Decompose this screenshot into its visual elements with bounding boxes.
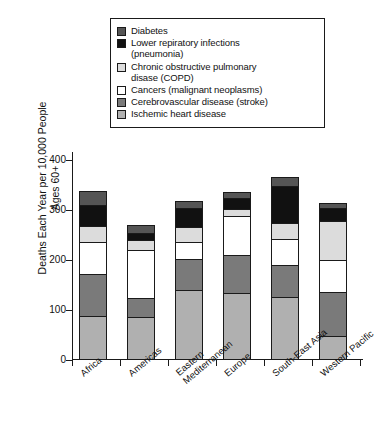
bar-segment [176, 228, 202, 244]
x-tick-mark [120, 360, 121, 366]
y-tick-label: 400 [36, 154, 66, 165]
bar-segment [128, 226, 154, 235]
legend-item-label: Lower repiratory infections (pneumonia) [131, 37, 240, 59]
bar-africa [79, 191, 107, 361]
legend-item: Ischemic heart disease [117, 108, 317, 119]
x-tick-mark [312, 360, 313, 366]
x-tick-mark [264, 360, 265, 366]
bar-segment [224, 199, 250, 210]
y-tick-label: 100 [36, 304, 66, 315]
bar-segment [176, 209, 202, 228]
bar-segment [176, 243, 202, 260]
bar-segment [272, 187, 298, 225]
legend-swatch-icon [117, 98, 126, 107]
x-tick-mark [360, 360, 361, 366]
bar-segment [80, 317, 106, 360]
legend-item-label: Chronic obstructive pulmonary disase (CO… [131, 61, 256, 83]
legend-item: Chronic obstructive pulmonary disase (CO… [117, 61, 317, 83]
bar-eastern-mediterranean [175, 201, 203, 361]
bar-americas [127, 225, 155, 361]
bar-segment [80, 227, 106, 244]
bar-segment [128, 251, 154, 299]
bar-segment [128, 241, 154, 252]
bar-segment [80, 275, 106, 317]
legend-item-label: Ischemic heart disease [131, 108, 226, 119]
bar-segment [80, 192, 106, 206]
bar-segment [80, 206, 106, 227]
legend-swatch-icon [117, 110, 126, 119]
bar-europe [223, 192, 251, 361]
bar-segment [224, 256, 250, 295]
legend-item-label: Diabetes [131, 25, 168, 36]
y-tick-label: 300 [36, 204, 66, 215]
chart-legend: DiabetesLower repiratory infections (pne… [110, 18, 325, 128]
stacked-bar-chart: DiabetesLower repiratory infections (pne… [0, 0, 387, 436]
legend-swatch-icon [117, 86, 126, 95]
bar-segment [176, 202, 202, 210]
bar-segment [272, 178, 298, 187]
y-tick-label: 200 [36, 254, 66, 265]
legend-swatch-icon [117, 27, 126, 36]
legend-item: Cancers (malignant neoplasms) [117, 84, 317, 95]
legend-item: Cerebrovascular disease (stroke) [117, 96, 317, 107]
legend-item-label: Cerebrovascular disease (stroke) [131, 96, 268, 107]
bar-segment [272, 266, 298, 298]
legend-item-label: Cancers (malignant neoplasms) [131, 84, 262, 95]
bar-segment [224, 217, 250, 256]
bar-segment [128, 299, 154, 318]
bar-segment [272, 224, 298, 240]
legend-swatch-icon [117, 39, 126, 48]
x-tick-mark [72, 360, 73, 366]
bar-segment [80, 243, 106, 275]
legend-item: Lower repiratory infections (pneumonia) [117, 37, 317, 59]
bar-segment [272, 240, 298, 266]
legend-item: Diabetes [117, 25, 317, 36]
bar-south-east-asia [271, 177, 299, 360]
bar-segment [320, 261, 346, 293]
x-tick-mark [168, 360, 169, 366]
legend-swatch-icon [117, 63, 126, 72]
bar-segment [320, 222, 346, 262]
bar-segment [320, 209, 346, 222]
bar-segment [176, 260, 202, 291]
y-tick-label: 0 [36, 354, 66, 365]
